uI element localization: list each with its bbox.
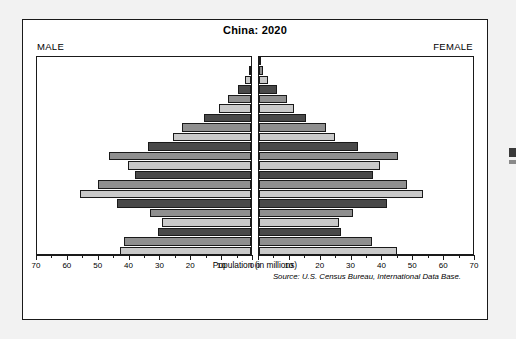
bar-male-40-44 — [135, 171, 251, 179]
female-bar-rows — [259, 57, 473, 254]
bar-male-10-14 — [158, 228, 251, 236]
bar-row — [259, 95, 473, 103]
axis-tick-minor-45 — [397, 255, 398, 258]
axis-tick-minor-55 — [82, 255, 83, 258]
bar-row — [37, 247, 251, 255]
bar-female-25-29 — [259, 199, 387, 207]
bar-male-85-89 — [238, 85, 251, 93]
bar-row — [37, 57, 251, 65]
bar-female-95-99 — [259, 66, 263, 74]
bar-row — [259, 247, 473, 255]
bar-row — [37, 142, 251, 150]
bar-row — [259, 66, 473, 74]
bar-male-15-19 — [162, 218, 251, 226]
x-axis-title: Population (in millions) — [23, 260, 487, 270]
bar-female-60-64 — [259, 133, 335, 141]
bar-female-90-94 — [259, 76, 268, 84]
page-background: China: 2020 MALE FEMALE 100+95-9990-9485… — [0, 0, 516, 339]
bar-male-30-34 — [80, 190, 251, 198]
male-bars-panel — [36, 56, 252, 255]
bar-row — [37, 114, 251, 122]
axis-tick-minor-65 — [51, 255, 52, 258]
bar-female-0-4 — [259, 247, 397, 255]
bar-row — [259, 76, 473, 84]
axis-tick-minor-45 — [113, 255, 114, 258]
axis-tick-minor-5 — [237, 255, 238, 258]
bar-male-35-39 — [98, 180, 251, 188]
bar-female-75-79 — [259, 104, 294, 112]
axis-tick-minor-25 — [335, 255, 336, 258]
bar-female-65-69 — [259, 123, 326, 131]
axis-tick-minor-55 — [428, 255, 429, 258]
plot-area: 100+95-9990-9485-8980-8475-7970-7465-696… — [23, 56, 487, 274]
bar-row — [37, 152, 251, 160]
bar-female-30-34 — [259, 190, 423, 198]
bar-row — [37, 76, 251, 84]
bar-row — [37, 180, 251, 188]
bar-row — [259, 123, 473, 131]
bar-male-45-49 — [128, 161, 251, 169]
bar-female-15-19 — [259, 218, 339, 226]
bar-row — [37, 209, 251, 217]
bar-row — [37, 190, 251, 198]
bar-male-95-99 — [249, 66, 251, 74]
page-edge-mark-lower — [509, 160, 516, 164]
bar-female-10-14 — [259, 228, 341, 236]
bar-row — [37, 123, 251, 131]
bar-row — [37, 218, 251, 226]
axis-tick-minor-35 — [366, 255, 367, 258]
axis-tick-minor-65 — [459, 255, 460, 258]
bar-female-20-24 — [259, 209, 353, 217]
axis-tick-minor-35 — [144, 255, 145, 258]
bar-female-45-49 — [259, 161, 380, 169]
bar-row — [259, 114, 473, 122]
bar-male-65-69 — [182, 123, 251, 131]
bar-male-20-24 — [150, 209, 251, 217]
bar-row — [259, 152, 473, 160]
bar-row — [37, 161, 251, 169]
axis-tick-minor-15 — [304, 255, 305, 258]
male-bar-rows — [37, 57, 251, 254]
source-note: Source: U.S. Census Bureau, Internationa… — [273, 272, 461, 281]
bar-female-100+ — [259, 57, 261, 65]
bar-row — [37, 228, 251, 236]
page-edge-mark-upper — [509, 148, 516, 157]
bar-row — [37, 104, 251, 112]
bar-male-90-94 — [245, 76, 251, 84]
bar-row — [259, 190, 473, 198]
bar-row — [259, 180, 473, 188]
population-pyramid-figure: China: 2020 MALE FEMALE 100+95-9990-9485… — [22, 19, 488, 320]
bar-row — [259, 218, 473, 226]
bar-row — [37, 199, 251, 207]
bar-male-25-29 — [117, 199, 252, 207]
bar-male-0-4 — [120, 247, 251, 255]
bar-male-75-79 — [219, 104, 251, 112]
bar-row — [259, 161, 473, 169]
bar-row — [259, 237, 473, 245]
bar-female-55-59 — [259, 142, 358, 150]
bar-male-80-84 — [228, 95, 251, 103]
bar-male-50-54 — [109, 152, 251, 160]
bar-row — [259, 85, 473, 93]
bar-female-85-89 — [259, 85, 277, 93]
bar-male-60-64 — [173, 133, 251, 141]
bar-row — [259, 228, 473, 236]
male-side-label: MALE — [37, 41, 64, 52]
bar-row — [37, 85, 251, 93]
bar-row — [37, 171, 251, 179]
bar-female-80-84 — [259, 95, 287, 103]
bar-row — [259, 57, 473, 65]
bar-male-5-9 — [124, 237, 251, 245]
bar-row — [259, 199, 473, 207]
bar-row — [259, 142, 473, 150]
axis-tick-minor-5 — [273, 255, 274, 258]
female-side-label: FEMALE — [433, 41, 473, 52]
bar-female-70-74 — [259, 114, 306, 122]
chart-title: China: 2020 — [23, 24, 487, 36]
axis-tick-minor-25 — [175, 255, 176, 258]
bar-female-50-54 — [259, 152, 398, 160]
bar-row — [259, 133, 473, 141]
bar-male-70-74 — [204, 114, 251, 122]
female-bars-panel — [258, 56, 474, 255]
bar-female-5-9 — [259, 237, 372, 245]
